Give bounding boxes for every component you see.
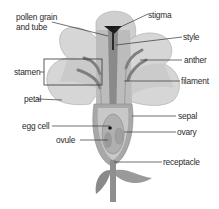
label-ovary: ovary [177,127,197,137]
label-sepal: sepal [178,111,197,121]
label-pollen-line2: and tube [16,22,57,32]
label-style: style [183,32,199,42]
label-egg-cell: egg cell [22,121,49,131]
label-stamen: stamen [14,67,40,77]
label-filament: filament [181,76,209,86]
label-ovule: ovule [56,135,75,145]
label-petal: petal [24,94,41,104]
label-pollen-grain: pollen grain and tube [16,12,57,32]
label-receptacle: receptacle [163,157,200,167]
label-stigma: stigma [148,10,172,20]
flower-diagram: pollen grain and tube stigma style stame… [0,0,219,209]
label-anther: anther [184,55,207,65]
